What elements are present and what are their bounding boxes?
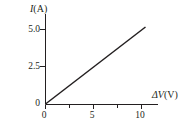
y-tick-label-2point5: 2.5	[14, 62, 40, 72]
x-axis-title: ΔV(V)	[152, 90, 178, 100]
x-tick-label-10: 10	[131, 111, 149, 121]
y-axis-unit: (A)	[33, 3, 47, 14]
y-tick-label-5: 5.0	[14, 25, 40, 35]
data-line-series-1	[46, 27, 146, 104]
y-axis-title: I(A)	[30, 4, 47, 14]
x-axis-symbol: ΔV	[152, 89, 164, 100]
y-tick-label-0: 0	[14, 99, 40, 109]
x-axis-unit: (V)	[164, 89, 178, 100]
iv-characteristic-chart: I(A) ΔV(V) 5.0 2.5 0 0 5 10	[0, 0, 190, 132]
x-tick-label-5: 5	[83, 111, 101, 121]
x-tick-label-0: 0	[35, 111, 53, 121]
